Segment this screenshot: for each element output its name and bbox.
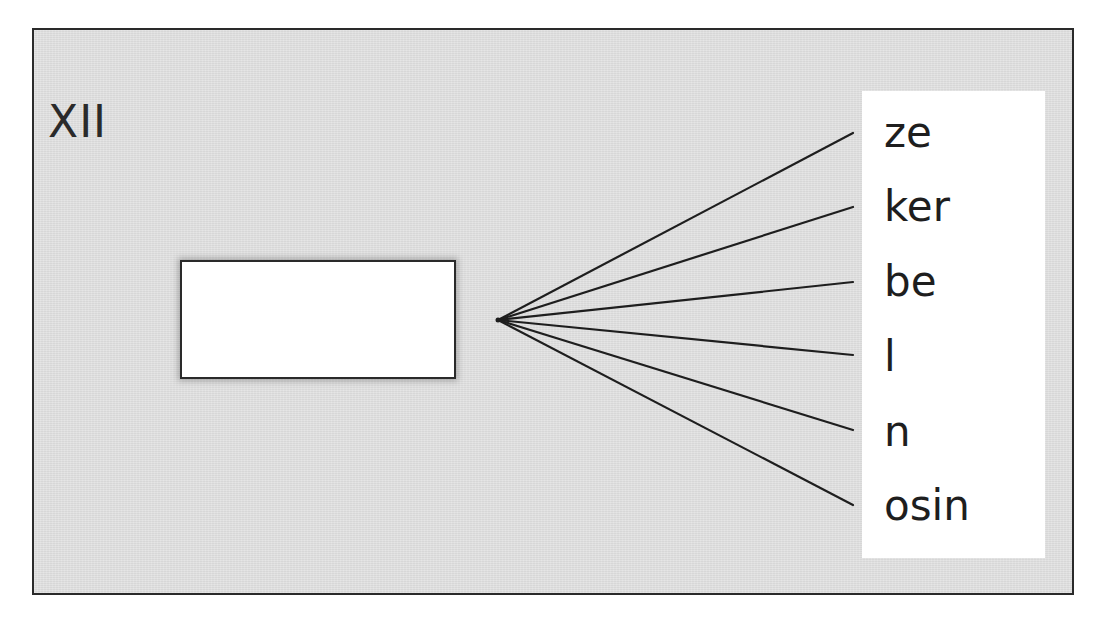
suffix-item: be	[884, 261, 937, 303]
blank-word-box	[180, 260, 456, 379]
suffix-item: osin	[884, 485, 970, 527]
suffix-item: l	[884, 336, 896, 378]
suffix-item: ze	[884, 112, 932, 154]
suffix-item: ker	[884, 186, 950, 228]
section-numeral: XII	[48, 100, 107, 144]
suffix-item: n	[884, 411, 911, 453]
